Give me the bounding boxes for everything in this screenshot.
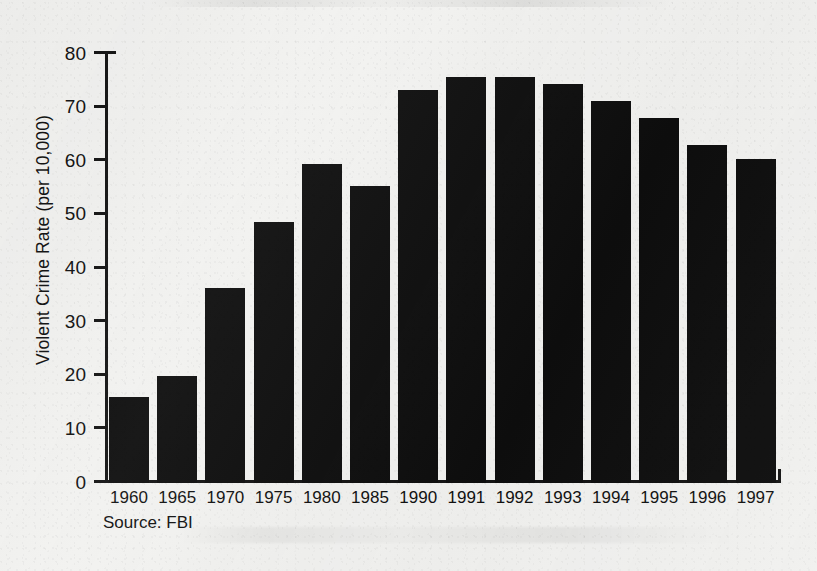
x-axis-label-1997: 1997: [729, 489, 783, 506]
bar-1980: [302, 164, 342, 483]
x-axis-label-1995: 1995: [632, 489, 686, 506]
bar-1960: [109, 397, 149, 483]
x-axis-label-1993: 1993: [536, 489, 590, 506]
violent-crime-rate-bar-chart: Violent Crime Rate (per 10,000) 01020304…: [0, 0, 817, 571]
x-axis-label-1985: 1985: [343, 489, 397, 506]
plot-area: 01020304050607080 1960196519701975198019…: [105, 45, 781, 486]
x-axis-label-1994: 1994: [584, 489, 638, 506]
bar-1995: [639, 118, 679, 483]
y-axis-title: Violent Crime Rate (per 10,000): [26, 0, 60, 480]
bar-1970: [205, 288, 245, 483]
y-axis-tick-label: 0: [75, 472, 86, 491]
y-axis-tick-label: 50: [65, 204, 86, 223]
y-axis-tick-label: 70: [65, 97, 86, 116]
bar-1965: [157, 376, 197, 483]
source-note: Source: FBI: [103, 513, 193, 533]
y-axis-tick: 40: [94, 266, 105, 269]
x-axis-label-1980: 1980: [295, 489, 349, 506]
y-axis-tick-label: 20: [65, 365, 86, 384]
x-axis-right-cap: [778, 469, 781, 483]
x-axis-label-1996: 1996: [680, 489, 734, 506]
y-axis-tick-label: 80: [65, 43, 86, 62]
bar-1985: [350, 186, 390, 483]
y-axis-tick-label: 40: [65, 258, 86, 277]
x-axis-label-1992: 1992: [488, 489, 542, 506]
bar-1992: [495, 77, 535, 483]
bar-1991: [446, 77, 486, 483]
x-axis-label-1960: 1960: [102, 489, 156, 506]
x-axis-label-1965: 1965: [150, 489, 204, 506]
bar-1975: [254, 222, 294, 483]
bar-1997: [736, 159, 776, 483]
x-axis-label-1975: 1975: [247, 489, 301, 506]
y-axis-tick: 30: [94, 319, 105, 322]
y-axis-tick: 60: [94, 158, 105, 161]
x-axis-label-1991: 1991: [439, 489, 493, 506]
y-axis-tick: 0: [94, 480, 105, 483]
x-axis-label-1990: 1990: [391, 489, 445, 506]
y-axis-tick-label: 60: [65, 150, 86, 169]
y-axis-tick: 10: [94, 426, 105, 429]
bar-1994: [591, 101, 631, 483]
y-axis-tick-label: 10: [65, 418, 86, 437]
y-axis-tick: 50: [94, 212, 105, 215]
y-axis-top-cap: [105, 51, 116, 54]
y-axis-line: [105, 51, 108, 480]
y-axis-tick: 80: [94, 51, 105, 54]
bar-1996: [687, 145, 727, 483]
bar-1993: [543, 84, 583, 483]
x-axis-label-1970: 1970: [198, 489, 252, 506]
y-axis-tick: 70: [94, 105, 105, 108]
bar-1990: [398, 90, 438, 483]
y-axis-tick-label: 30: [65, 311, 86, 330]
y-axis-tick: 20: [94, 373, 105, 376]
